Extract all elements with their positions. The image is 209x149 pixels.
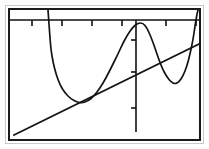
plot-canvas[interactable] [10,10,199,139]
line-trace [14,44,199,135]
plot-area-frame[interactable] [8,8,201,141]
calculator-screen [0,0,209,149]
